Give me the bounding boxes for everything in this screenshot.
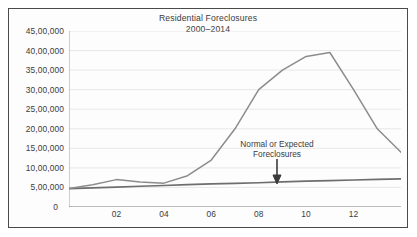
- y-tick-2500000: 25,00,000: [26, 104, 64, 114]
- annotation-line-2: Foreclosures: [217, 149, 337, 159]
- annotation-normal-expected: Normal or Expected Foreclosures: [217, 139, 337, 159]
- down-arrow-icon: [273, 159, 281, 184]
- x-tick-10: 10: [301, 209, 311, 219]
- gridlines: [69, 31, 401, 187]
- y-tick-4000000: 40,00,000: [26, 46, 64, 56]
- x-tick-02: 02: [112, 209, 122, 219]
- y-axis-labels: 45,00,000 40,00,000 35,00,000 30,00,000 …: [9, 9, 69, 207]
- series-line-residential-foreclosures: [69, 53, 401, 189]
- x-tick-04: 04: [159, 209, 169, 219]
- chart-figure: Residential Foreclosures 2000–2014 45,00…: [8, 8, 408, 228]
- y-tick-500000: 5,00,000: [31, 182, 64, 192]
- x-tick-06: 06: [207, 209, 217, 219]
- chart-svg: [69, 31, 401, 207]
- annotation-line-1: Normal or Expected: [217, 139, 337, 149]
- plot-area: [69, 31, 401, 207]
- y-tick-1500000: 15,00,000: [26, 143, 64, 153]
- y-tick-1000000: 10,00,000: [26, 163, 64, 173]
- y-tick-2000000: 20,00,000: [26, 124, 64, 134]
- x-axis-labels: 02 04 06 08 10 12: [69, 209, 401, 225]
- y-tick-3500000: 35,00,000: [26, 65, 64, 75]
- y-tick-4500000: 45,00,000: [26, 26, 64, 36]
- x-tick-12: 12: [349, 209, 359, 219]
- y-tick-3000000: 30,00,000: [26, 85, 64, 95]
- x-tick-08: 08: [254, 209, 264, 219]
- y-tick-0: 0: [53, 202, 58, 212]
